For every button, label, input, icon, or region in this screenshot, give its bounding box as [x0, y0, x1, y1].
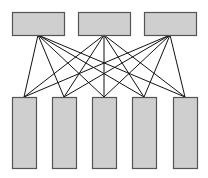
network-diagram	[0, 0, 208, 178]
edges-group	[24, 35, 185, 97]
node-top-3	[145, 13, 197, 36]
edge-top-1-bottom-4	[38, 35, 144, 97]
node-bottom-3	[93, 98, 117, 169]
node-top-2	[79, 13, 131, 36]
edge-top-3-bottom-2	[64, 35, 170, 97]
node-top-1	[13, 13, 65, 36]
edge-top-2-bottom-4	[104, 35, 144, 97]
node-bottom-4	[133, 98, 157, 169]
node-bottom-5	[174, 98, 198, 169]
node-bottom-2	[53, 98, 77, 169]
edge-top-1-bottom-3	[38, 35, 104, 97]
edge-top-3-bottom-3	[104, 35, 170, 97]
node-bottom-1	[13, 98, 37, 169]
